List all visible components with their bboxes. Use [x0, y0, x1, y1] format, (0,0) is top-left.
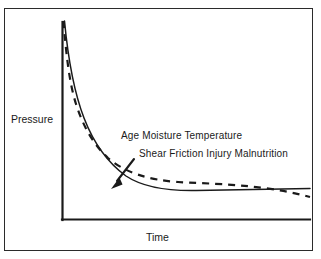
- x-axis-label: Time: [146, 232, 169, 243]
- factors-annotation-line-2: Shear Friction Injury Malnutrition: [139, 149, 288, 159]
- figure-canvas: Pressure Time Age Moisture Temperature S…: [0, 0, 321, 259]
- reduced-tolerance-curve: [64, 21, 311, 197]
- y-axis-label: Pressure: [11, 114, 53, 125]
- factors-annotation-line-1: Age Moisture Temperature: [121, 131, 242, 141]
- baseline-pressure-curve: [65, 21, 311, 191]
